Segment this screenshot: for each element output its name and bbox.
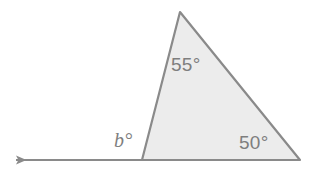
apex-angle-label: 55°	[171, 55, 201, 74]
triangle-shape	[142, 12, 300, 160]
geometry-figure: 55° 50° b°	[0, 0, 314, 187]
exterior-angle-label: b°	[114, 130, 133, 150]
diagram-canvas	[0, 0, 314, 187]
bottom-right-angle-label: 50°	[239, 133, 269, 152]
